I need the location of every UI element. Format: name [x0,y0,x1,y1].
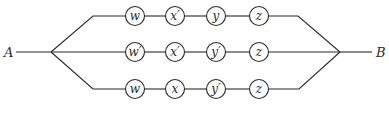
node-label: w [130,9,141,23]
node-label: x′ [170,9,180,23]
node-label: y′ [210,82,221,96]
label-a: A [3,45,13,60]
label-b: B [375,45,386,60]
node-label: w′ [129,45,142,59]
node-label: z [255,9,263,23]
wire-right-branch-bottom [268,52,340,89]
wire-right-branch-top [268,16,340,52]
node-label: x′ [170,45,180,59]
node-label: y′ [210,45,221,59]
node-label: x [172,82,179,96]
row-wires [144,16,250,89]
node-label: z [255,45,263,59]
circuit-diagram: A B w x′ y z w′ x′ y′ [0,0,389,114]
node-label: w [130,82,141,96]
node-label: z [255,82,263,96]
wire-left-branch-bottom [51,52,126,89]
node-label: y [212,9,220,23]
wire-left-branch-top [51,16,126,52]
